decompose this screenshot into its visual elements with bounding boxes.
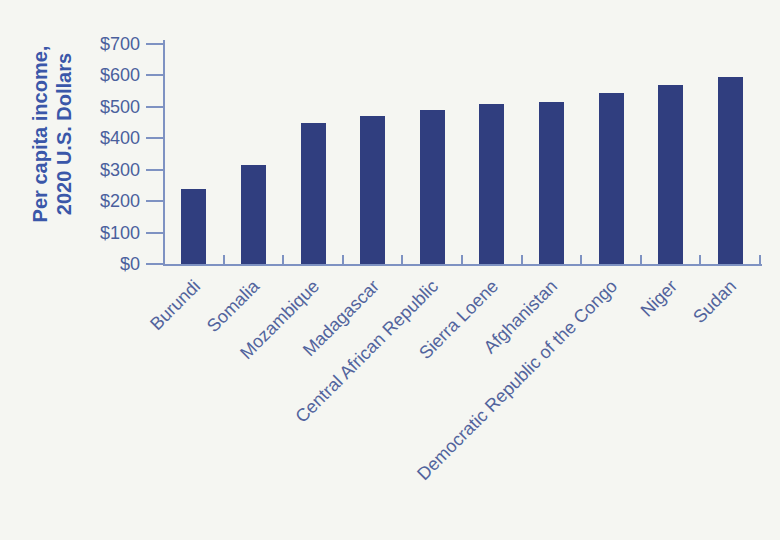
bar-sierra-loene xyxy=(479,104,504,264)
x-tick-mark xyxy=(640,255,642,264)
y-tick-mark xyxy=(146,106,164,108)
y-tick-mark xyxy=(146,169,164,171)
y-tick-label: $0 xyxy=(50,253,140,275)
y-tick-label: $200 xyxy=(50,190,140,212)
bar-somalia xyxy=(241,165,266,264)
x-axis-line xyxy=(163,264,762,266)
y-tick-mark xyxy=(146,74,164,76)
x-tick-mark xyxy=(401,255,403,264)
x-tick-mark xyxy=(699,255,701,264)
y-tick-label: $300 xyxy=(50,159,140,181)
y-tick-mark xyxy=(146,43,164,45)
bar-sudan xyxy=(718,77,743,264)
y-axis-line xyxy=(163,40,165,266)
y-axis-title-line1: Per capita income, xyxy=(28,0,52,284)
x-tick-mark xyxy=(342,255,344,264)
x-tick-mark xyxy=(282,255,284,264)
y-tick-label: $100 xyxy=(50,222,140,244)
x-tick-mark xyxy=(521,255,523,264)
y-tick-mark xyxy=(146,137,164,139)
bar-democratic-republic-of-the-congo xyxy=(599,93,624,264)
y-tick-mark xyxy=(146,200,164,202)
bar-niger xyxy=(658,85,683,264)
bar-afghanistan xyxy=(539,102,564,264)
bar-mozambique xyxy=(301,123,326,264)
x-tick-mark xyxy=(759,255,761,264)
bar-chart: Per capita income, 2020 U.S. Dollars $0$… xyxy=(0,0,780,540)
bar-central-african-republic xyxy=(420,110,445,264)
y-tick-mark xyxy=(146,232,164,234)
y-tick-mark xyxy=(146,263,164,265)
bar-madagascar xyxy=(360,116,385,264)
y-tick-label: $500 xyxy=(50,96,140,118)
x-tick-mark xyxy=(223,255,225,264)
bar-burundi xyxy=(181,189,206,264)
y-tick-label: $400 xyxy=(50,127,140,149)
x-tick-mark xyxy=(580,255,582,264)
y-tick-label: $700 xyxy=(50,33,140,55)
x-tick-mark xyxy=(461,255,463,264)
y-tick-label: $600 xyxy=(50,64,140,86)
